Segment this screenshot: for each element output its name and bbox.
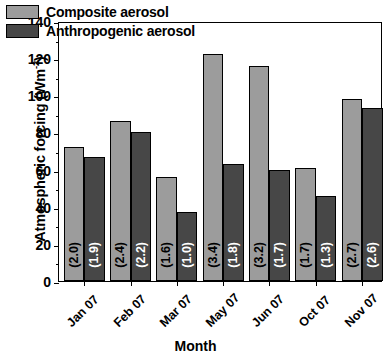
- legend-swatch-icon: [6, 24, 39, 38]
- bar-anthropogenic-feb-07: (2.2): [131, 132, 152, 281]
- y-axis-tick-label: 60: [17, 164, 51, 178]
- bar-value-label-wrap: (2.0): [65, 242, 84, 272]
- bar-value-label-wrap: (1.3): [317, 242, 336, 272]
- bar-value-label: (1.9): [88, 242, 101, 268]
- bar-value-label: (1.3): [320, 242, 333, 268]
- y-axis-minor-tick-mark: [56, 153, 60, 154]
- bar-value-label-wrap: (2.2): [132, 242, 151, 272]
- bar-value-label: (2.0): [68, 242, 81, 268]
- bar-composite-jun-07: (3.2): [249, 66, 270, 281]
- y-axis-minor-tick-mark: [56, 116, 60, 117]
- bar-value-label-wrap: (1.6): [157, 242, 176, 272]
- y-axis-tick-mark: [54, 172, 59, 173]
- legend-item: Anthropogenic aerosol: [6, 23, 195, 39]
- y-axis-tick-mark: [54, 60, 59, 61]
- bar-value-label-wrap: (3.4): [204, 242, 223, 272]
- bar-composite-mar-07: (1.6): [156, 177, 177, 281]
- bar-value-label: (3.2): [253, 242, 266, 268]
- bar-value-label: (2.7): [346, 242, 359, 268]
- x-axis-tick-label: Mar 07: [157, 292, 195, 330]
- bar-composite-feb-07: (2.4): [110, 121, 131, 281]
- bar-value-label: (3.4): [207, 242, 220, 268]
- bar-value-label-wrap: (2.7): [343, 242, 362, 272]
- x-axis-title: Month: [0, 338, 391, 354]
- y-axis-tick-label: 0: [17, 275, 51, 289]
- bar-composite-may-07: (3.4): [203, 54, 224, 281]
- bar-anthropogenic-oct-07: (1.3): [316, 196, 337, 281]
- x-axis-tick-label: Feb 07: [111, 292, 149, 330]
- y-axis-tick-mark: [54, 209, 59, 210]
- bar-value-label-wrap: (3.2): [250, 242, 269, 272]
- bar-anthropogenic-jun-07: (1.7): [269, 170, 290, 281]
- y-axis-minor-tick-mark: [56, 227, 60, 228]
- bars-container: (2.0)(1.9)(2.4)(2.2)(1.6)(1.0)(3.4)(1.8)…: [59, 23, 381, 281]
- y-axis-tick-mark: [54, 283, 59, 284]
- y-axis-tick-label: 120: [17, 52, 51, 66]
- y-axis-tick-label: 80: [17, 126, 51, 140]
- y-axis-minor-tick-mark: [56, 264, 60, 265]
- plot-area: (2.0)(1.9)(2.4)(2.2)(1.6)(1.0)(3.4)(1.8)…: [58, 22, 382, 282]
- bar-value-label-wrap: (2.4): [111, 242, 130, 272]
- bar-composite-oct-07: (1.7): [295, 168, 316, 281]
- legend-label: Composite aerosol: [46, 4, 169, 20]
- bar-value-label: (2.4): [114, 242, 127, 268]
- bar-value-label-wrap: (1.0): [178, 242, 197, 272]
- x-axis-tick-label: Nov 07: [342, 291, 381, 330]
- bar-value-label: (2.6): [366, 242, 379, 268]
- y-axis-tick-labels: 020406080100120140: [17, 0, 51, 359]
- bar-value-label: (1.7): [273, 242, 286, 268]
- bar-value-label: (1.7): [299, 242, 312, 268]
- y-axis-tick-mark: [54, 134, 59, 135]
- bar-value-label-wrap: (2.6): [363, 242, 382, 272]
- bar-value-label: (1.0): [181, 242, 194, 268]
- y-axis-minor-tick-mark: [56, 79, 60, 80]
- bar-anthropogenic-mar-07: (1.0): [177, 212, 198, 281]
- y-axis-tick-mark: [54, 246, 59, 247]
- y-axis-minor-tick-mark: [56, 190, 60, 191]
- legend-swatch-icon: [6, 5, 39, 19]
- chart-legend: Composite aerosolAnthropogenic aerosol: [6, 4, 195, 39]
- legend-item: Composite aerosol: [6, 4, 195, 20]
- bar-value-label: (2.2): [135, 242, 148, 268]
- y-axis-tick-mark: [54, 97, 59, 98]
- bar-composite-jan-07: (2.0): [64, 147, 85, 281]
- y-axis-minor-tick-mark: [56, 42, 60, 43]
- y-axis-tick-label: 100: [17, 89, 51, 103]
- x-axis-tick-label: Jan 07: [64, 292, 101, 329]
- bar-value-label: (1.6): [160, 242, 173, 268]
- bar-value-label-wrap: (1.7): [270, 242, 289, 272]
- x-axis-tick-label: May 07: [203, 291, 242, 330]
- legend-label: Anthropogenic aerosol: [46, 23, 195, 39]
- bar-value-label-wrap: (1.8): [224, 242, 243, 272]
- bar-chart-figure: Atmospheric forcing (Wm-2) 0204060801001…: [0, 0, 391, 359]
- bar-anthropogenic-jan-07: (1.9): [84, 157, 105, 281]
- bar-composite-nov-07: (2.7): [342, 99, 363, 281]
- bar-anthropogenic-may-07: (1.8): [223, 164, 244, 281]
- bar-value-label-wrap: (1.7): [296, 242, 315, 272]
- y-axis-tick-label: 20: [17, 238, 51, 252]
- bar-value-label-wrap: (1.9): [85, 242, 104, 272]
- x-axis-tick-labels: Jan 07Feb 07Mar 07May 07Jun 07Oct 07Nov …: [58, 286, 382, 336]
- bar-value-label: (1.8): [227, 242, 240, 268]
- y-axis-tick-label: 40: [17, 201, 51, 215]
- x-axis-tick-label: Oct 07: [296, 293, 333, 330]
- bar-anthropogenic-nov-07: (2.6): [362, 108, 383, 281]
- x-axis-tick-label: Jun 07: [249, 292, 287, 330]
